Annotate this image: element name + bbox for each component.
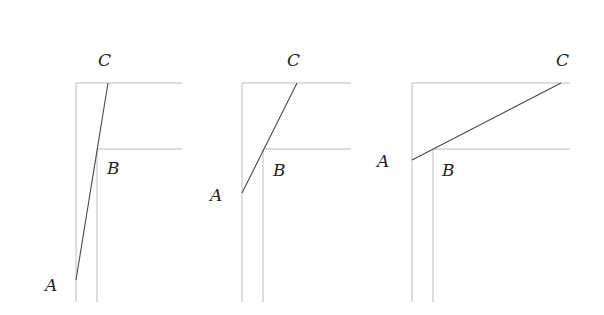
- label-c: C: [556, 50, 569, 70]
- label-c: C: [98, 50, 111, 70]
- label-b: B: [272, 160, 286, 180]
- panel-3: A B C: [375, 50, 570, 302]
- label-a: A: [43, 275, 57, 295]
- corner-diagram: A B C A B C A B C: [0, 0, 604, 315]
- segment-ac: [76, 83, 108, 280]
- panel-1: A B C: [43, 50, 182, 302]
- panel-2: A B C: [208, 50, 351, 302]
- label-a: A: [208, 185, 222, 205]
- label-a: A: [375, 151, 389, 171]
- label-b: B: [441, 160, 455, 180]
- label-c: C: [287, 50, 300, 70]
- segment-ac: [412, 83, 561, 160]
- label-b: B: [106, 158, 120, 178]
- segment-ac: [242, 83, 297, 193]
